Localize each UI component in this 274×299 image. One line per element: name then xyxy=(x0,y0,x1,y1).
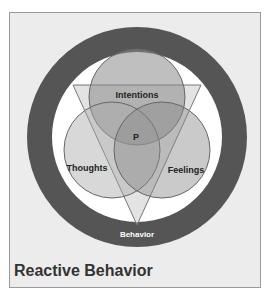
label-thoughts: Thoughts xyxy=(67,163,108,173)
label-intentions: Intentions xyxy=(116,90,159,100)
label-feelings: Feelings xyxy=(168,165,205,175)
venn-diagram: Intentions P Thoughts Feelings Behavior xyxy=(0,0,274,299)
label-center: P xyxy=(133,132,139,142)
diagram-title: Reactive Behavior xyxy=(14,262,153,280)
label-behavior: Behavior xyxy=(120,230,154,239)
feelings-circle xyxy=(114,102,210,198)
